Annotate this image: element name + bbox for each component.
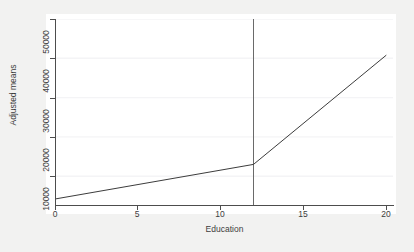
y-tick-label-50000: 50000 <box>41 20 51 64</box>
plot-canvas <box>55 19 393 205</box>
x-tick-label-10: 10 <box>205 209 235 219</box>
x-tick-label-15: 15 <box>288 209 318 219</box>
x-axis-title: Education <box>55 224 394 234</box>
plot-area <box>55 19 393 205</box>
x-tick-label-20: 20 <box>371 209 401 219</box>
y-tick-label-20000: 20000 <box>41 138 51 182</box>
data-line-adjusted-means <box>55 55 386 199</box>
y-tick-label-40000: 40000 <box>41 59 51 103</box>
gridlines <box>55 19 393 176</box>
chart-figure: 50000 40000 30000 20000 10000 0 5 10 15 … <box>0 0 414 252</box>
y-tick-label-30000: 30000 <box>41 99 51 143</box>
x-axis-line <box>55 205 394 206</box>
x-tick-label-0: 0 <box>40 209 70 219</box>
x-tick-label-5: 5 <box>122 209 152 219</box>
y-axis-line <box>55 19 56 206</box>
y-axis-title: Adjusted means <box>8 45 18 145</box>
